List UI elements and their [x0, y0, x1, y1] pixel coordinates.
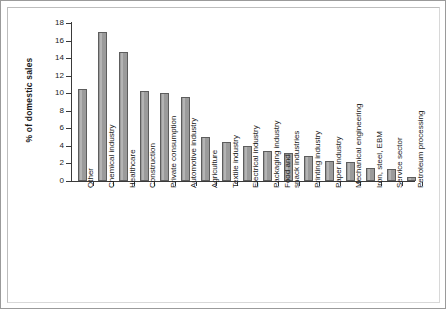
- y-axis-tick-label: 0: [18, 176, 64, 185]
- y-axis-tick: [66, 76, 72, 77]
- x-axis-tick-label: Paper industry: [334, 136, 343, 188]
- x-axis-tick-label-line: Other: [86, 168, 95, 188]
- bar: [325, 161, 334, 181]
- x-axis-tick-label: Petroleum processing: [416, 111, 425, 188]
- x-axis-tick-label: Other: [86, 168, 95, 188]
- x-axis-tick-label-line: Iron, steel, EBM: [375, 131, 384, 188]
- x-axis-tick-label: Healthcare: [128, 149, 137, 188]
- y-axis-line: [71, 22, 72, 182]
- y-axis-tick-label: 6: [18, 123, 64, 132]
- x-axis-line: [71, 181, 415, 182]
- y-axis-tick: [66, 111, 72, 112]
- x-axis-tick-label: Mechanical engineering: [354, 104, 363, 189]
- x-axis-tick-label: Electrical industry: [251, 125, 260, 188]
- x-axis-tick-label: Construction: [148, 143, 157, 188]
- bar: [366, 168, 375, 181]
- bar: [222, 142, 231, 181]
- y-axis-tick: [66, 163, 72, 164]
- y-axis-tick: [66, 128, 72, 129]
- x-axis-tick-label: Agriculture: [210, 150, 219, 188]
- y-axis-tick: [66, 146, 72, 147]
- y-axis-tick-label: 2: [18, 158, 64, 167]
- x-axis-tick-label-line: Paper industry: [334, 136, 343, 188]
- y-axis-tick-label: 8: [18, 106, 64, 115]
- y-axis-tick-label: 4: [18, 141, 64, 150]
- bar: [263, 151, 272, 181]
- x-axis-tick-label-line: Automotive industry: [189, 118, 198, 188]
- x-axis-tick-label: Packaging industry: [272, 120, 281, 188]
- y-axis-tick-label: 16: [18, 36, 64, 45]
- y-axis-tick-label: 18: [18, 18, 64, 27]
- y-axis-tick: [66, 41, 72, 42]
- bar: [160, 93, 169, 181]
- y-axis-tick: [66, 58, 72, 59]
- y-axis-tick-label: 10: [18, 88, 64, 97]
- x-axis-tick-label-line: Textile industry: [231, 135, 240, 188]
- y-axis-tick: [66, 93, 72, 94]
- x-axis-tick-label-line: snack industries: [292, 131, 301, 188]
- y-axis-tick: [66, 181, 72, 182]
- x-axis-tick-label-line: Petroleum processing: [416, 111, 425, 188]
- x-axis-tick-label-line: Printing industry: [313, 131, 322, 188]
- x-axis-tick-label: Chemical industry: [107, 124, 116, 188]
- x-axis-tick-label: Iron, steel, EBM: [375, 131, 384, 188]
- x-axis-tick-label-line: Service sector: [395, 137, 404, 188]
- x-axis-tick-label: Service sector: [395, 137, 404, 188]
- x-axis-tick-label-line: Food and: [283, 131, 292, 188]
- x-axis-tick-label-line: Healthcare: [128, 149, 137, 188]
- x-axis-tick-label: Automotive industry: [189, 118, 198, 188]
- x-axis-tick-label: Private consumption: [169, 116, 178, 188]
- bar-chart: % of domestic sales 024681012141618 Othe…: [0, 0, 446, 309]
- x-axis-tick-label: Textile industry: [231, 135, 240, 188]
- y-axis-tick-label: 12: [18, 71, 64, 80]
- x-axis-tick-label: Printing industry: [313, 131, 322, 188]
- x-axis-tick-label-line: Electrical industry: [251, 125, 260, 188]
- y-axis-tick-label: 14: [18, 53, 64, 62]
- x-axis-tick-label-line: Construction: [148, 143, 157, 188]
- x-axis-tick-label: Food andsnack industries: [283, 131, 301, 188]
- bar: [119, 52, 128, 181]
- x-axis-tick-label-line: Packaging industry: [272, 120, 281, 188]
- x-axis-tick-label-line: Agriculture: [210, 150, 219, 188]
- x-axis-tick-label-line: Mechanical engineering: [354, 104, 363, 189]
- x-axis-tick-label-line: Private consumption: [169, 116, 178, 188]
- x-axis-tick-label-line: Chemical industry: [107, 124, 116, 188]
- y-axis-tick: [66, 23, 72, 24]
